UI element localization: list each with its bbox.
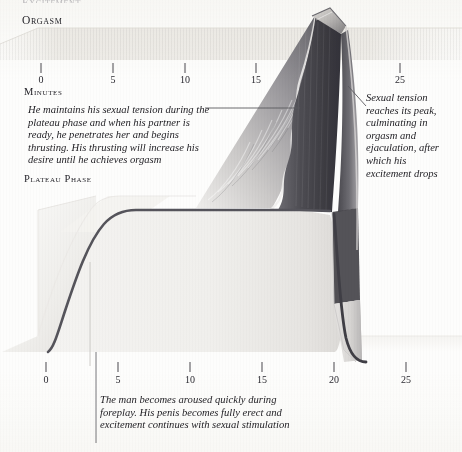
annotation-excitement: The man becomes aroused quickly during f… bbox=[100, 394, 298, 432]
lower-tick-10: 10 bbox=[185, 374, 195, 385]
lower-axis-ticks bbox=[46, 362, 406, 372]
upper-plane-band bbox=[0, 28, 462, 60]
cutoff-header-text: Excitement bbox=[22, 0, 81, 3]
lower-tick-5: 5 bbox=[116, 374, 121, 385]
upper-tick-15: 15 bbox=[251, 74, 261, 85]
figure-canvas: Excitement bbox=[0, 0, 462, 452]
upper-tick-10: 10 bbox=[180, 74, 190, 85]
annotation-orgasm: Sexual tension reaches its peak, culmina… bbox=[366, 92, 452, 180]
upper-tick-0: 0 bbox=[39, 74, 44, 85]
label-orgasm: Orgasm bbox=[22, 14, 62, 26]
lower-tick-20: 20 bbox=[329, 374, 339, 385]
annotation-plateau: He maintains his sexual tension during t… bbox=[28, 104, 210, 167]
label-plateau-phase: Plateau Phase bbox=[24, 173, 92, 184]
lower-tick-0: 0 bbox=[44, 374, 49, 385]
upper-tick-5: 5 bbox=[111, 74, 116, 85]
lower-tick-25: 25 bbox=[401, 374, 411, 385]
lower-tick-15: 15 bbox=[257, 374, 267, 385]
label-minutes: Minutes bbox=[24, 86, 62, 97]
response-curve-artwork bbox=[0, 0, 462, 452]
upper-tick-25: 25 bbox=[395, 74, 405, 85]
